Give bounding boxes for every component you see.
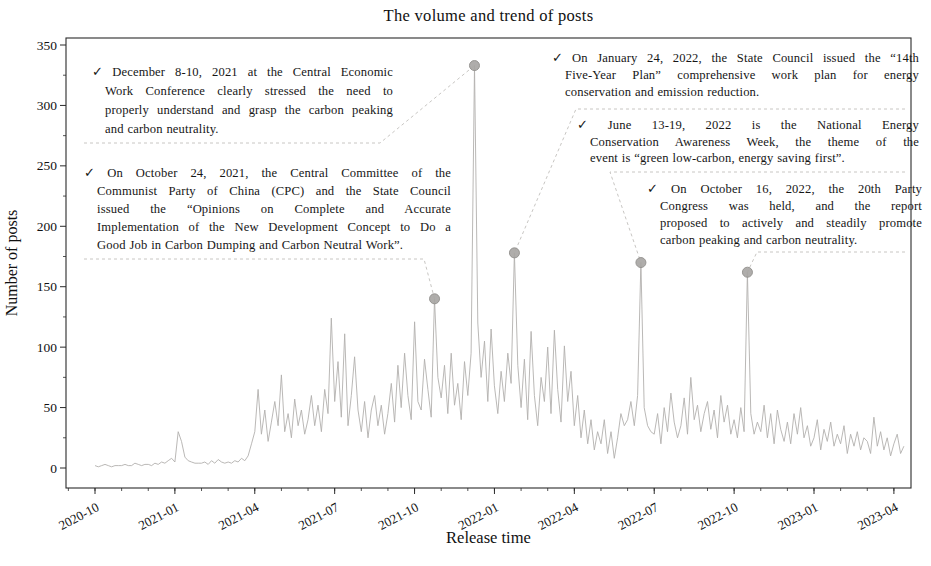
annotation-text-line: Good Job in Carbon Dumping and Carbon Ne…	[97, 236, 451, 254]
x-tick-label: 2020-10	[56, 499, 101, 533]
leader-line	[84, 259, 435, 299]
annotation-dec-2021-conference: ✓December 8-10, 2021 at the Central Econ…	[92, 63, 393, 139]
annotation-text-line: ✓On October 24, 2021, the Central Commit…	[84, 164, 451, 182]
y-tick-label: 0	[50, 461, 57, 476]
event-marker	[742, 267, 752, 277]
y-tick-label: 50	[44, 400, 58, 415]
y-tick-label: 250	[37, 158, 58, 173]
annotation-oct-2021-opinions: ✓On October 24, 2021, the Central Commit…	[84, 164, 451, 254]
x-tick-label: 2021-04	[216, 499, 262, 533]
chart-figure: The volume and trend of posts 0501001502…	[0, 0, 931, 566]
y-tick-label: 350	[37, 38, 58, 53]
annotation-text-line: event is “green low-carbon, energy savin…	[590, 150, 919, 167]
annotation-text-line: ✓December 8-10, 2021 at the Central Econ…	[92, 63, 393, 82]
event-marker	[509, 248, 519, 258]
annotation-text-line: issued the “Opinions on Complete and Acc…	[97, 200, 451, 218]
checkmark-icon: ✓	[84, 166, 104, 180]
x-tick-label: 2021-01	[136, 499, 181, 533]
x-tick-label: 2021-07	[296, 499, 342, 533]
x-tick-label: 2022-10	[695, 499, 740, 533]
annotation-text-line: ✓On January 24, 2022, the State Council …	[552, 50, 919, 67]
annotation-text-line: Five-Year Plan” comprehensive work plan …	[565, 67, 919, 84]
y-tick-label: 300	[37, 98, 58, 113]
annotation-text-line: Conservation Awareness Week, the theme o…	[590, 134, 919, 151]
annotation-jun-2022-week: ✓June 13-19, 2022 is the National Energy…	[577, 117, 919, 167]
annotation-text-line: carbon peaking and carbon neutrality.	[660, 232, 922, 249]
checkmark-icon: ✓	[92, 65, 109, 79]
checkmark-icon: ✓	[577, 118, 605, 132]
annotation-text-line: Work Conference clearly stressed the nee…	[105, 82, 393, 101]
annotation-text-line: proposed to actively and steadily promot…	[660, 215, 922, 232]
x-tick-label: 2023-04	[855, 499, 901, 533]
annotation-text-line: Implementation of the New Development Co…	[97, 218, 451, 236]
y-tick-label: 150	[37, 279, 58, 294]
checkmark-icon: ✓	[647, 182, 668, 196]
annotation-oct-2022-congress: ✓On October 16, 2022, the 20th PartyCong…	[647, 181, 922, 249]
annotation-text-line: conservation and emission reduction.	[565, 84, 919, 101]
x-tick-label: 2021-10	[376, 499, 421, 533]
event-marker	[430, 294, 440, 304]
y-tick-label: 200	[37, 219, 58, 234]
y-tick-label: 100	[37, 340, 58, 355]
event-marker	[469, 61, 479, 71]
annotation-text-line: Communist Party of China (CPC) and the S…	[97, 182, 451, 200]
checkmark-icon: ✓	[552, 51, 569, 65]
x-tick-label: 2022-07	[615, 499, 661, 533]
annotation-jan-2022-plan: ✓On January 24, 2022, the State Council …	[552, 50, 919, 101]
event-marker	[636, 258, 646, 268]
annotation-text-line: properly understand and grasp the carbon…	[105, 101, 393, 120]
annotation-text-line: ✓On October 16, 2022, the 20th Party	[647, 181, 922, 198]
annotation-text-line: Congress was held, and the report	[660, 198, 922, 215]
x-axis-label: Release time	[446, 528, 531, 547]
leader-line	[747, 252, 905, 272]
x-tick-label: 2023-01	[775, 499, 820, 533]
y-axis-label: Number of posts	[3, 210, 21, 317]
x-tick-label: 2022-04	[535, 499, 581, 533]
annotation-text-line: ✓June 13-19, 2022 is the National Energy	[577, 117, 919, 134]
annotation-text-line: and carbon neutrality.	[105, 120, 393, 139]
